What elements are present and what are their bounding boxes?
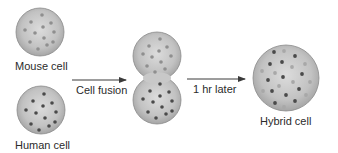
hybrid-cell-label: Hybrid cell — [260, 115, 311, 127]
hybrid-cell — [253, 45, 319, 111]
human-cell-label: Human cell — [15, 139, 70, 151]
cell-fusion-label: Cell fusion — [76, 84, 127, 96]
mouse-cell — [16, 8, 64, 56]
time-label: 1 hr later — [193, 83, 236, 95]
human-cell — [17, 86, 65, 134]
mouse-cell-label: Mouse cell — [15, 60, 68, 72]
fused-cell — [133, 32, 181, 124]
cell-fusion-diagram — [0, 0, 338, 153]
